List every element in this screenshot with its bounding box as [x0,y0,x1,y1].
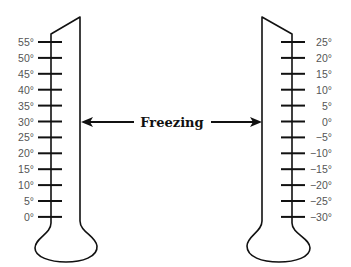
right-thermometer [247,17,310,262]
tick-label: −5° [316,131,332,143]
tick-label: 0° [24,211,34,223]
left-ticks [38,42,62,217]
diagram-canvas: 55°50°45°40°35°30°25°20°15°10°5°0° 25°20… [0,0,351,267]
tick-label: 40° [18,84,34,96]
tick-label: −10° [310,147,332,159]
tick-label: 5° [322,100,332,112]
right-arrow [211,117,262,127]
tick-label: 0° [322,116,332,128]
thermometer-diagram: 55°50°45°40°35°30°25°20°15°10°5°0° 25°20… [0,0,351,267]
freezing-label: Freezing [140,115,203,130]
tick-label: −30° [310,211,332,223]
tick-label: 30° [18,116,34,128]
tick-label: 15° [316,68,332,80]
tick-label: 25° [18,131,34,143]
left-labels: 55°50°45°40°35°30°25°20°15°10°5°0° [18,36,34,223]
tick-label: 35° [18,100,34,112]
tick-label: 10° [316,84,332,96]
tick-label: 5° [24,195,34,207]
tick-label: 20° [316,52,332,64]
left-thermometer [35,17,97,262]
tick-label: 25° [316,36,332,48]
left-arrow [81,117,134,127]
tick-label: −25° [310,195,332,207]
tick-label: 10° [18,179,34,191]
tick-label: 55° [18,36,34,48]
tick-label: −20° [310,179,332,191]
right-labels: 25°20°15°10°5°0°−5°−10°−15°−20°−25°−30° [310,36,332,223]
right-ticks [281,42,305,217]
tick-label: 20° [18,147,34,159]
tick-label: 50° [18,52,34,64]
tick-label: 15° [18,163,34,175]
tick-label: 45° [18,68,34,80]
tick-label: −15° [310,163,332,175]
